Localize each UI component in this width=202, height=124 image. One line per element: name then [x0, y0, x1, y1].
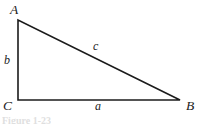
vertex-label-c: C: [3, 99, 12, 113]
side-label-c: c: [93, 40, 98, 52]
vertex-label-a: A: [10, 3, 18, 17]
triangle-diagram: [0, 0, 202, 124]
triangle-outline: [18, 20, 180, 100]
figure-caption: Figure 1-23: [2, 115, 152, 124]
side-label-a: a: [95, 100, 101, 112]
vertex-label-b: B: [186, 99, 194, 113]
side-label-b: b: [4, 54, 10, 66]
figure-container: A B C b c a Figure 1-23: [0, 0, 202, 124]
